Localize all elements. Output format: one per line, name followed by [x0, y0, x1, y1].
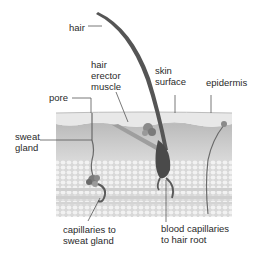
label-skin-surface: skin surface: [155, 65, 186, 87]
label-sweat-gland: sweat gland: [15, 131, 40, 153]
label-blood-capillaries-hair-root: blood capillaries to hair root: [161, 223, 229, 245]
label-epidermis: epidermis: [206, 77, 247, 88]
label-hair: hair: [69, 22, 85, 33]
label-capillaries-sweat-gland: capillaries to sweat gland: [63, 224, 116, 246]
connective-band: [56, 188, 232, 191]
skin-diagram: [0, 0, 256, 256]
label-pore: pore: [49, 92, 68, 103]
label-hair-erector-muscle: hair erector muscle: [91, 59, 121, 92]
